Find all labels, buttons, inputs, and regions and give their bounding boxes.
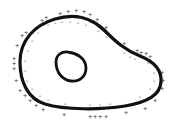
- negative-charge-symbol: -: [23, 67, 27, 75]
- negative-charge-symbol: -: [152, 77, 156, 85]
- negative-charge-symbol: -: [30, 37, 34, 45]
- positive-charge-symbol: +: [98, 113, 102, 121]
- negative-charge-symbol: -: [148, 85, 152, 93]
- positive-charge-symbol: +: [104, 113, 108, 121]
- positive-charge-symbol: +: [20, 32, 24, 40]
- positive-charge-symbol: +: [62, 111, 66, 119]
- negative-charge-symbol: -: [23, 57, 27, 65]
- negative-charge-symbol: -: [138, 93, 142, 101]
- positive-charge-symbol: +: [88, 11, 92, 19]
- negative-charge-symbol: -: [38, 92, 42, 100]
- negative-charge-symbol: -: [68, 18, 72, 26]
- negative-charge-symbol: -: [84, 21, 88, 29]
- positive-charge-symbol: +: [15, 42, 19, 50]
- negative-charge-symbol: -: [30, 85, 34, 93]
- negative-charge-symbol: -: [25, 77, 29, 85]
- positive-charge-symbol: +: [143, 105, 147, 113]
- positive-charge-symbol: +: [82, 8, 86, 16]
- positive-charge-symbol: +: [41, 106, 45, 114]
- negative-charge-symbol: -: [46, 96, 50, 104]
- negative-charge-symbol: -: [76, 19, 80, 27]
- positive-charge-symbol: +: [74, 7, 78, 15]
- negative-charge-symbol: -: [26, 47, 30, 55]
- positive-charge-symbol: +: [34, 102, 38, 110]
- positive-charge-symbol: +: [23, 92, 27, 100]
- positive-charge-symbol: +: [14, 77, 18, 85]
- positive-charge-symbol: +: [12, 65, 16, 73]
- positive-charge-symbol: +: [93, 113, 97, 121]
- positive-charge-symbol: +: [18, 87, 22, 95]
- positive-charge-symbol: +: [124, 109, 128, 117]
- positive-charge-symbol: +: [66, 8, 70, 16]
- negative-charge-symbol: -: [152, 69, 156, 77]
- cell-diagram: +++++++++++++++++++++++++++++++++++++ --…: [0, 0, 173, 129]
- positive-charge-symbol: +: [88, 113, 92, 121]
